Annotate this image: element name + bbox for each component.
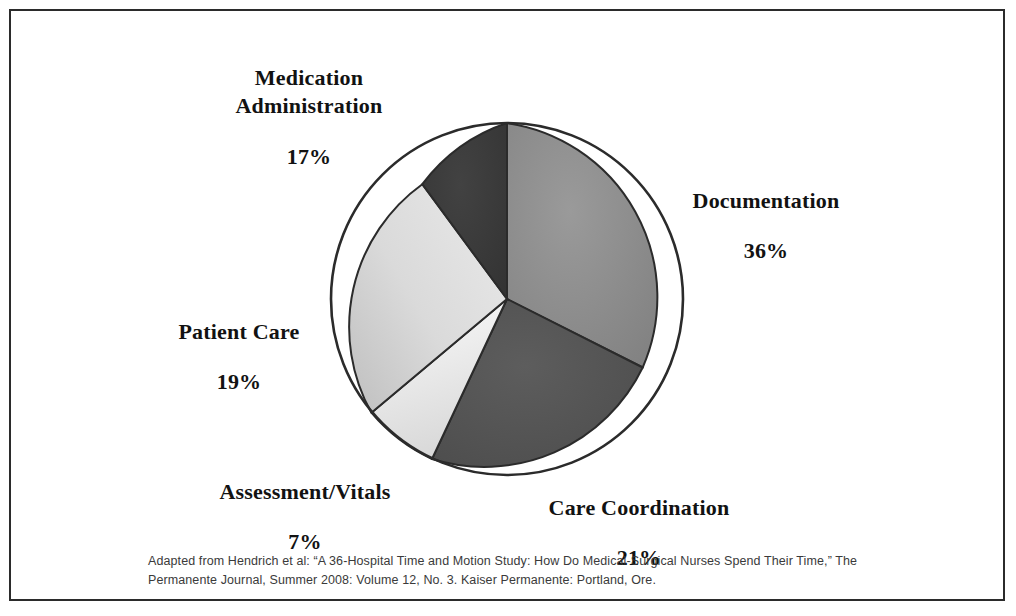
pie-label-patient-care: Patient Care 19% bbox=[137, 297, 341, 418]
pie-label-documentation: Documentation 36% bbox=[647, 166, 885, 287]
figure-frame: Medication Administration 17% Documentat… bbox=[9, 9, 1005, 601]
pie-label-medication-administration-value: 17% bbox=[189, 143, 429, 172]
pie-label-documentation-value: 36% bbox=[647, 237, 885, 266]
figure-caption: Adapted from Hendrich et al: “A 36-Hospi… bbox=[148, 552, 900, 589]
pie-label-patient-care-value: 19% bbox=[137, 368, 341, 397]
pie-label-medication-administration-name: Medication Administration bbox=[189, 64, 429, 121]
pie-label-care-coordination-name: Care Coordination bbox=[503, 494, 775, 523]
pie-label-assessment-vitals-name: Assessment/Vitals bbox=[183, 478, 427, 507]
pie-label-patient-care-name: Patient Care bbox=[137, 318, 341, 347]
pie-label-medication-administration: Medication Administration 17% bbox=[189, 43, 429, 192]
pie-label-documentation-name: Documentation bbox=[647, 187, 885, 216]
